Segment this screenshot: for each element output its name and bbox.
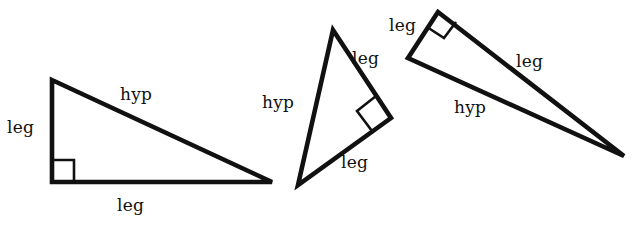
triangle-2-right-angle-marker (357, 96, 376, 131)
diagram-canvas: leg hyp leg hyp leg leg leg leg hyp (0, 0, 635, 226)
triangle-3-outline (408, 12, 624, 156)
triangle-3-hyp-label: hyp (454, 99, 486, 116)
triangle-1 (52, 80, 272, 182)
triangle-1-hyp-label: hyp (120, 86, 152, 103)
triangle-3 (408, 12, 624, 156)
triangle-3-leg-long-label: leg (516, 53, 543, 70)
triangle-2-hyp-label: hyp (262, 94, 294, 111)
triangle-1-leg-horizontal-label: leg (117, 197, 144, 214)
triangle-1-leg-vertical-label: leg (7, 119, 34, 136)
triangle-2-leg-lower-label: leg (341, 154, 368, 171)
right-triangles-svg (0, 0, 635, 226)
triangle-1-outline (52, 80, 272, 182)
triangle-2-leg-upper-label: leg (352, 50, 379, 67)
triangle-3-leg-short-label: leg (389, 17, 416, 34)
triangle-1-right-angle-marker (52, 160, 74, 182)
